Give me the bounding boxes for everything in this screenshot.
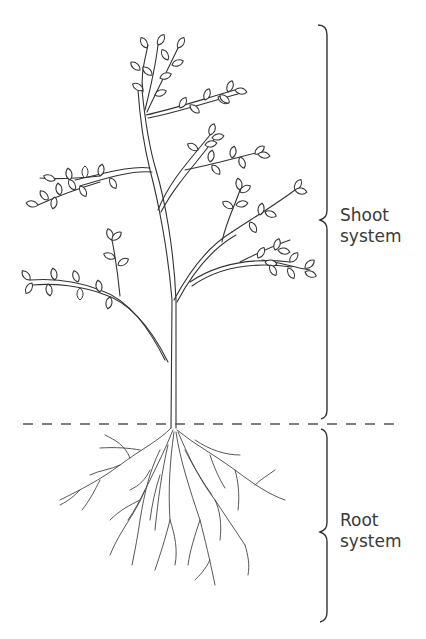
shoot-system-label: Shoot system <box>340 205 401 247</box>
shoot-label-line2: system <box>340 226 401 247</box>
shoot-label-line1: Shoot <box>340 205 401 226</box>
root-system-drawing <box>60 428 285 585</box>
root-label-line2: system <box>340 531 401 552</box>
shoot-system-drawing <box>30 45 310 428</box>
root-bracket <box>320 429 327 622</box>
root-label-line1: Root <box>340 510 401 531</box>
root-system-label: Root system <box>340 510 401 552</box>
shoot-bracket <box>318 25 327 419</box>
